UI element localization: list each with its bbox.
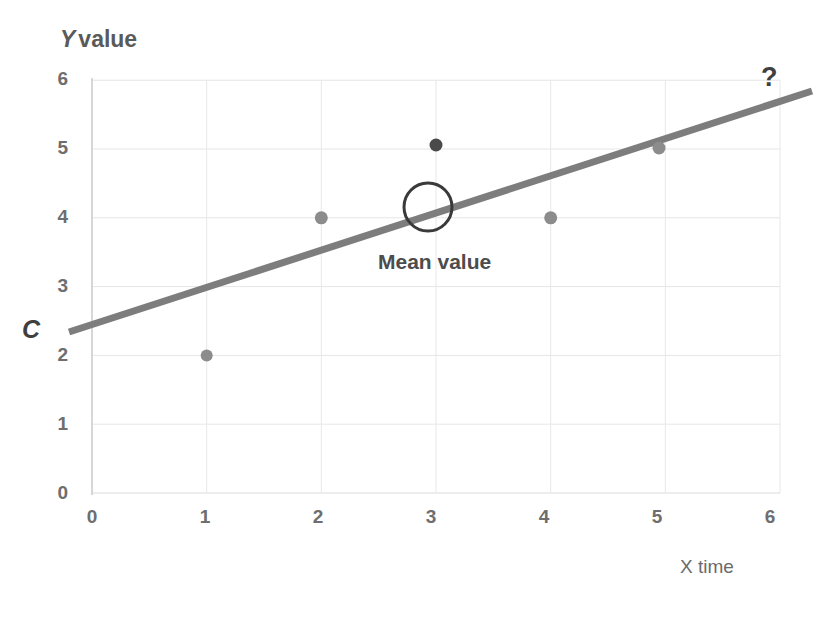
data-point [201, 349, 213, 361]
data-point [653, 142, 666, 155]
question-mark-annotation: ? [761, 62, 778, 93]
data-point [430, 139, 443, 152]
trend-line [69, 91, 812, 332]
data-point [544, 211, 557, 224]
intercept-label: C [22, 315, 40, 344]
mean-value-label: Mean value [378, 250, 491, 274]
data-point [315, 211, 328, 224]
plot-area [0, 0, 836, 622]
chart-figure: Yvalue X time 6 5 4 3 2 1 0 0 1 2 3 4 5 … [0, 0, 836, 622]
